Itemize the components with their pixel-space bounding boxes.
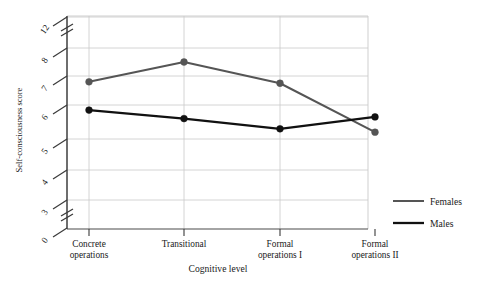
data-point [86,107,93,114]
x-tick-label: Formal [362,239,389,249]
data-point [86,78,93,85]
y-tick-label: 0 [39,235,50,245]
y-tick-label: 12 [38,23,51,36]
y-tick-mark [53,139,67,148]
x-tick-label: operations II [351,250,398,260]
y-tick-label: 8 [39,55,50,65]
x-tick-label: Concrete [72,239,106,249]
data-point [372,114,379,121]
legend-label: Females [430,196,462,207]
y-tick-mark [53,76,67,85]
y-tick-label: 7 [39,83,50,93]
x-tick-label: operations [70,250,109,260]
y-tick-label: 4 [39,177,50,187]
data-point [277,125,284,132]
data-point [181,59,188,66]
chart-figure: Self-consciousness score 128765430 Concr… [0,0,491,294]
data-point [372,129,379,136]
x-axis-title: Cognitive level [189,263,248,274]
x-tick-label: Transitional [162,239,207,249]
y-tick-label: 6 [39,112,50,122]
y-tick-mark [53,170,67,179]
y-tick-mark [53,105,67,114]
line-chart: Self-consciousness score 128765430 Concr… [0,0,491,294]
y-tick-mark [53,17,67,26]
y-axis-ticks: 128765430 [38,17,67,245]
y-tick-mark [53,200,67,209]
y-axis-title: Self-consciousness score [14,87,24,172]
y-tick-mark [53,228,67,237]
series-line [89,110,375,129]
y-tick-mark [53,48,67,57]
y-tick-label: 3 [39,207,50,217]
x-axis-ticks: ConcreteoperationsTransitionalFormaloper… [70,229,399,260]
y-tick-label: 5 [39,146,50,156]
data-point [181,115,188,122]
legend-label: Males [430,218,454,229]
data-series [86,59,379,136]
x-tick-label: operations I [258,250,302,260]
chart-legend: FemalesMales [393,196,462,229]
y-axis-title-text: Self-consciousness score [14,87,24,172]
data-point [277,80,284,87]
x-tick-label: Formal [267,239,294,249]
